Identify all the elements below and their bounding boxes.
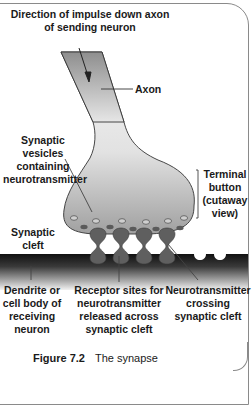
axon xyxy=(61,52,124,122)
figure-caption: Figure 7.2The synapse xyxy=(33,352,158,364)
direction-label: Direction of impulse down axon of sendin… xyxy=(10,8,170,34)
terminal-bracket xyxy=(196,170,198,218)
cleft-label: Synaptic cleft xyxy=(10,226,56,252)
figure-number: Figure 7.2 xyxy=(33,352,85,364)
crossing-label: Neurotransmitter crossing synaptic cleft xyxy=(165,284,251,323)
receptor-site xyxy=(136,228,152,264)
figure-title: The synapse xyxy=(95,352,158,364)
receptor-site xyxy=(159,228,175,264)
axon-label: Axon xyxy=(135,83,161,96)
receptor-site xyxy=(90,228,106,264)
vesicles-label: Synaptic vesicles containing neurotransm… xyxy=(3,134,83,186)
receptor-label: Receptor sites for neurotransmitter rele… xyxy=(72,284,166,336)
terminal-label: Terminal button (cutaway view) xyxy=(199,168,251,220)
receptor-site xyxy=(113,228,129,264)
dendrite-label: Dendrite or cell body of receiving neuro… xyxy=(2,284,62,336)
